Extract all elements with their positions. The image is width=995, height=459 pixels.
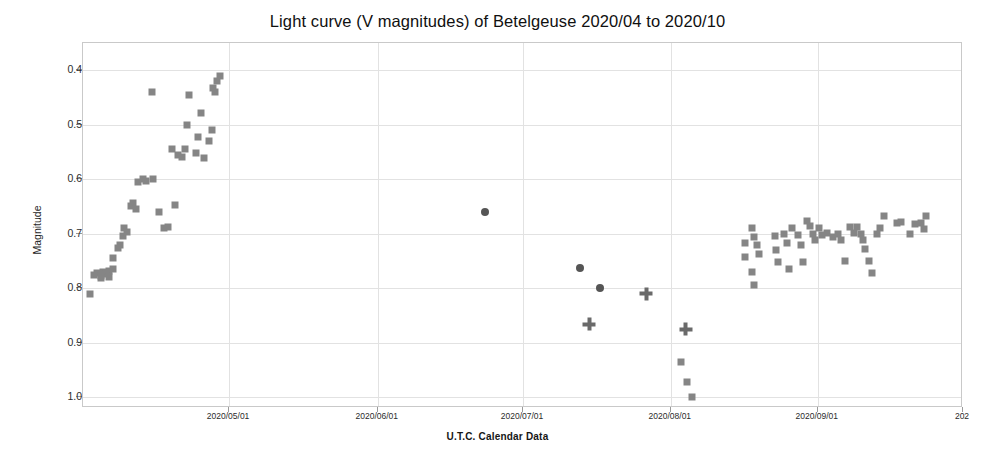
x-axis-tick-label: 202: [955, 411, 969, 421]
data-point-square: [880, 213, 887, 220]
gridline-vertical: [378, 43, 379, 406]
gridline-horizontal: [83, 70, 961, 71]
x-axis-tick-label: 2020/08/01: [649, 411, 692, 421]
data-point-cross: [640, 287, 653, 300]
y-axis-tick-label: 0.8: [42, 281, 82, 293]
data-point-square: [859, 237, 866, 244]
data-point-square: [178, 154, 185, 161]
data-point-square: [898, 218, 905, 225]
data-point-square: [195, 133, 202, 140]
data-point-square: [837, 237, 844, 244]
data-point-square: [923, 213, 930, 220]
y-axis-tick-label: 0.6: [42, 172, 82, 184]
data-point-square: [907, 230, 914, 237]
gridline-horizontal: [83, 179, 961, 180]
y-axis-tick-label: 0.9: [42, 336, 82, 348]
x-axis-tick-label: 2020/09/01: [796, 411, 839, 421]
data-point-square: [869, 269, 876, 276]
data-point-square: [171, 202, 178, 209]
gridline-vertical: [671, 43, 672, 406]
data-point-square: [109, 255, 116, 262]
data-point-cross: [679, 323, 692, 336]
data-point-square: [784, 240, 791, 247]
x-axis-title: U.T.C. Calendar Data: [0, 431, 995, 442]
data-point-square: [748, 268, 755, 275]
data-point-square: [806, 223, 813, 230]
x-axis-tick-label: 2020/07/01: [501, 411, 544, 421]
data-point-square: [182, 146, 189, 153]
x-axis-tick-label: 2020/06/01: [356, 411, 399, 421]
data-point-square: [748, 225, 755, 232]
chart-title: Light curve (V magnitudes) of Betelgeuse…: [0, 12, 995, 31]
data-point-square: [785, 266, 792, 273]
data-point-square: [165, 224, 172, 231]
chart-figure: Light curve (V magnitudes) of Betelgeuse…: [0, 0, 995, 459]
gridline-vertical: [523, 43, 524, 406]
data-point-square: [87, 290, 94, 297]
gridline-horizontal: [83, 343, 961, 344]
data-point-square: [205, 138, 212, 145]
data-point-square: [97, 275, 104, 282]
data-point-square: [865, 257, 872, 264]
data-point-square: [217, 72, 224, 79]
data-point-square: [862, 245, 869, 252]
data-point-circle: [576, 264, 584, 272]
y-axis-tick-label: 0.7: [42, 227, 82, 239]
x-axis-tick-label: 2020/05/01: [207, 411, 250, 421]
data-point-square: [124, 229, 131, 236]
data-point-square: [149, 176, 156, 183]
data-point-circle: [481, 208, 489, 216]
data-point-square: [201, 155, 208, 162]
data-point-square: [683, 378, 690, 385]
data-point-square: [750, 233, 757, 240]
data-point-square: [921, 226, 928, 233]
data-point-square: [741, 253, 748, 260]
data-point-square: [773, 247, 780, 254]
data-point-square: [751, 282, 758, 289]
data-point-square: [794, 231, 801, 238]
data-point-square: [185, 91, 192, 98]
data-point-cross: [583, 318, 596, 331]
data-point-square: [842, 257, 849, 264]
data-point-square: [798, 241, 805, 248]
gridline-horizontal: [83, 125, 961, 126]
data-point-square: [148, 89, 155, 96]
data-point-square: [781, 230, 788, 237]
data-point-square: [192, 150, 199, 157]
data-point-square: [775, 259, 782, 266]
data-point-square: [688, 394, 695, 401]
data-point-circle: [596, 284, 604, 292]
data-point-square: [741, 240, 748, 247]
data-point-square: [771, 233, 778, 240]
data-point-square: [132, 206, 139, 213]
y-axis-tick-layer: 0.40.50.60.70.80.91.0: [34, 42, 82, 407]
data-point-square: [197, 109, 204, 116]
plot-area: [82, 42, 962, 407]
data-point-square: [116, 241, 123, 248]
gridline-vertical: [229, 43, 230, 406]
data-point-square: [812, 237, 819, 244]
data-point-square: [109, 266, 116, 273]
data-point-square: [754, 241, 761, 248]
data-point-square: [755, 251, 762, 258]
data-point-square: [210, 84, 217, 91]
data-point-square: [877, 225, 884, 232]
y-axis-tick-label: 0.4: [42, 63, 82, 75]
y-axis-tick-label: 1.0: [42, 390, 82, 402]
gridline-horizontal: [83, 397, 961, 398]
gridline-horizontal: [83, 288, 961, 289]
data-point-square: [678, 358, 685, 365]
data-point-square: [155, 208, 162, 215]
data-point-square: [183, 121, 190, 128]
data-point-square: [799, 259, 806, 266]
data-point-square: [209, 127, 216, 134]
x-axis-tick-layer: 2020/05/012020/06/012020/07/012020/08/01…: [82, 407, 962, 429]
y-axis-tick-label: 0.5: [42, 118, 82, 130]
data-point-square: [106, 274, 113, 281]
